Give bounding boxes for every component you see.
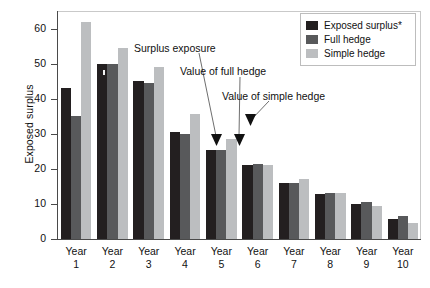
legend-swatch-icon [306, 35, 318, 44]
bar [351, 204, 361, 239]
bar [190, 114, 200, 239]
legend-item-label: Full hedge [324, 34, 371, 45]
x-axis-label-line2: 1 [58, 258, 94, 271]
y-tick-label: 0 [6, 233, 46, 244]
bar [361, 202, 371, 239]
y-tick-label: 30 [6, 128, 46, 139]
annotation-surplus-exposure: Surplus exposure [134, 42, 216, 54]
y-tick-label: 10 [6, 198, 46, 209]
x-axis-label-line2: 9 [348, 258, 384, 271]
bar [388, 219, 398, 239]
y-tick-mark [51, 29, 58, 30]
bar [97, 64, 107, 239]
bar-artifact [103, 70, 105, 75]
x-axis-label-line1: Year [240, 245, 276, 258]
x-axis-label-line1: Year [312, 245, 348, 258]
bar [315, 194, 325, 239]
bar [325, 193, 335, 239]
x-axis-label-line2: 6 [240, 258, 276, 271]
x-axis-label-line1: Year [348, 245, 384, 258]
bar [372, 206, 382, 239]
bar [253, 164, 263, 239]
bar [289, 183, 299, 239]
x-axis-label-line1: Year [167, 245, 203, 258]
bar-chart: Exposed surplus 0102030405060 Year1Year2… [0, 0, 430, 288]
bar [81, 22, 91, 239]
y-tick-label: 50 [6, 58, 46, 69]
legend-item[interactable]: Exposed surplus* [306, 19, 410, 32]
bar [242, 165, 252, 239]
x-axis-label-line2: 2 [94, 258, 130, 271]
x-axis-label-line1: Year [58, 245, 94, 258]
legend-swatch-icon [306, 49, 318, 58]
x-axis-label-line2: 4 [167, 258, 203, 271]
bar [216, 150, 226, 239]
y-tick-label: 40 [6, 93, 46, 104]
bar-group [240, 11, 276, 239]
bar [144, 83, 154, 239]
bar [408, 223, 418, 239]
y-axis-title: Exposed surplus [23, 49, 35, 199]
x-axis-label-line2: 8 [312, 258, 348, 271]
x-axis-label: Year7 [276, 245, 312, 270]
bar-group [94, 11, 130, 239]
y-tick-label: 20 [6, 163, 46, 174]
y-tick-mark [51, 134, 58, 135]
x-axis-line [57, 239, 421, 240]
annotation-value-full-hedge: Value of full hedge [180, 65, 266, 77]
annotation-value-simple-hedge: Value of simple hedge [222, 90, 325, 102]
bar [107, 64, 117, 239]
x-axis-label-line1: Year [131, 245, 167, 258]
bar [71, 116, 81, 239]
legend-item-label: Simple hedge [324, 48, 385, 59]
x-axis-label: Year3 [131, 245, 167, 270]
x-axis-label-line1: Year [385, 245, 421, 258]
x-axis-label-line1: Year [94, 245, 130, 258]
bar [118, 48, 128, 239]
x-axis-label: Year4 [167, 245, 203, 270]
legend-item-label: Exposed surplus* [324, 20, 402, 31]
x-axis-label: Year9 [348, 245, 384, 270]
x-axis-label-line1: Year [203, 245, 239, 258]
y-tick-mark [51, 64, 58, 65]
x-axis-label: Year10 [385, 245, 421, 270]
y-tick-label: 60 [6, 23, 46, 34]
bar [180, 134, 190, 239]
bar [398, 216, 408, 239]
x-axis-label-line2: 3 [131, 258, 167, 271]
bar [61, 88, 71, 239]
x-axis-label-line2: 7 [276, 258, 312, 271]
bar-group [58, 11, 94, 239]
y-tick-mark [51, 99, 58, 100]
y-tick-mark [51, 239, 58, 240]
y-tick-mark [51, 169, 58, 170]
x-axis-label: Year8 [312, 245, 348, 270]
bar [335, 193, 345, 239]
x-axis-label: Year1 [58, 245, 94, 270]
x-axis-label-line2: 5 [203, 258, 239, 271]
y-tick-mark [51, 204, 58, 205]
legend-item[interactable]: Full hedge [306, 33, 410, 46]
x-axis-label: Year2 [94, 245, 130, 270]
legend-swatch-icon [306, 21, 318, 30]
x-axis-label: Year6 [240, 245, 276, 270]
bar [279, 183, 289, 239]
x-axis-label: Year5 [203, 245, 239, 270]
bar [299, 179, 309, 239]
chart-legend: Exposed surplus*Full hedgeSimple hedge [300, 13, 416, 66]
bar [263, 165, 273, 239]
x-axis-label-line2: 10 [385, 258, 421, 271]
bar [154, 67, 164, 239]
bar [170, 132, 180, 239]
bar [206, 150, 216, 239]
bar [133, 81, 143, 239]
bar [226, 139, 236, 239]
legend-item[interactable]: Simple hedge [306, 47, 410, 60]
x-axis-label-line1: Year [276, 245, 312, 258]
